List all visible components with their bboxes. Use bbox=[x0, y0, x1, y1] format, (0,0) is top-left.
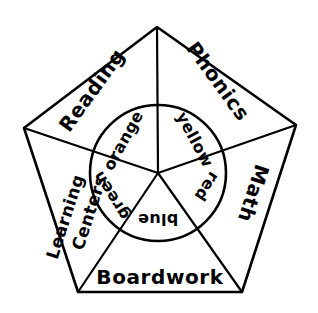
pentagon-rotation-wheel: Phonics Math Boardwork Learning Centers … bbox=[0, 0, 318, 313]
pentagon-outline bbox=[24, 27, 296, 292]
wheel-diagram: Phonics Math Boardwork Learning Centers … bbox=[0, 0, 318, 313]
wedge-label-blue: blue bbox=[138, 210, 178, 229]
sector-label-reading: Reading bbox=[54, 44, 130, 136]
sector-label-boardwork: Boardwork bbox=[96, 265, 224, 289]
wedge-label-red: red bbox=[190, 168, 223, 204]
sector-label-phonics: Phonics bbox=[182, 37, 255, 125]
wedge-label-orange: orange bbox=[99, 107, 147, 173]
spoke-top bbox=[157, 27, 158, 173]
spoke-right bbox=[158, 125, 296, 173]
